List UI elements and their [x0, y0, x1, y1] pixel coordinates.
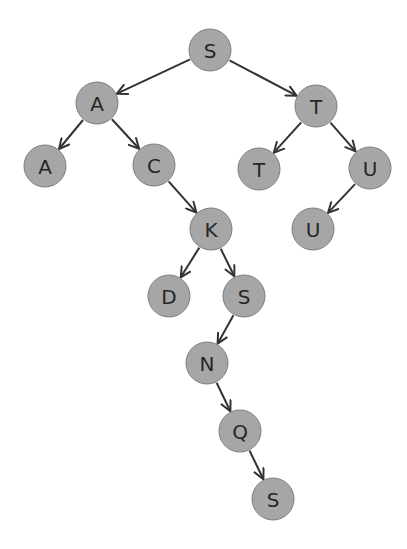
tree-node: D: [148, 275, 190, 317]
node-label: U: [306, 218, 321, 242]
edge-n2-n5: [112, 119, 139, 149]
tree-node: A: [24, 145, 66, 187]
edge-n3-n6: [274, 122, 301, 152]
edge-n8-n11: [221, 249, 235, 277]
tree-node: N: [186, 342, 228, 384]
tree-node: Q: [219, 410, 261, 452]
node-label: A: [38, 155, 52, 179]
node-label: T: [309, 95, 323, 119]
edge-n7-n9: [328, 184, 355, 213]
tree-node: K: [190, 208, 232, 250]
tree-node: U: [292, 208, 334, 250]
node-label: T: [252, 158, 266, 182]
node-label: Q: [232, 420, 248, 444]
tree-node: A: [76, 82, 118, 124]
tree-diagram: SATACTUKUDSNQS: [0, 0, 407, 549]
tree-node: T: [295, 85, 337, 127]
edge-n3-n7: [330, 123, 355, 152]
edge-n5-n8: [169, 181, 197, 212]
node-label: K: [204, 218, 218, 242]
tree-node: S: [252, 478, 294, 520]
edge-n12-n13: [217, 383, 231, 411]
node-label: A: [90, 92, 104, 116]
tree-node: T: [238, 148, 280, 190]
tree-node: U: [349, 147, 391, 189]
nodes-layer: SATACTUKUDSNQS: [24, 29, 391, 520]
node-label: S: [238, 285, 251, 309]
edge-n13-n14: [250, 451, 264, 479]
node-label: C: [147, 154, 161, 178]
node-label: S: [267, 488, 280, 512]
edge-n8-n10: [181, 248, 200, 278]
tree-node: S: [189, 29, 231, 71]
node-label: D: [161, 285, 176, 309]
edge-n1-n3: [230, 60, 297, 95]
tree-node: C: [133, 144, 175, 186]
node-label: S: [204, 39, 217, 63]
edge-n1-n2: [117, 59, 190, 93]
edge-n2-n4: [59, 120, 83, 149]
edge-n11-n12: [218, 315, 234, 343]
node-label: N: [200, 352, 215, 376]
node-label: U: [363, 157, 378, 181]
tree-node: S: [223, 275, 265, 317]
